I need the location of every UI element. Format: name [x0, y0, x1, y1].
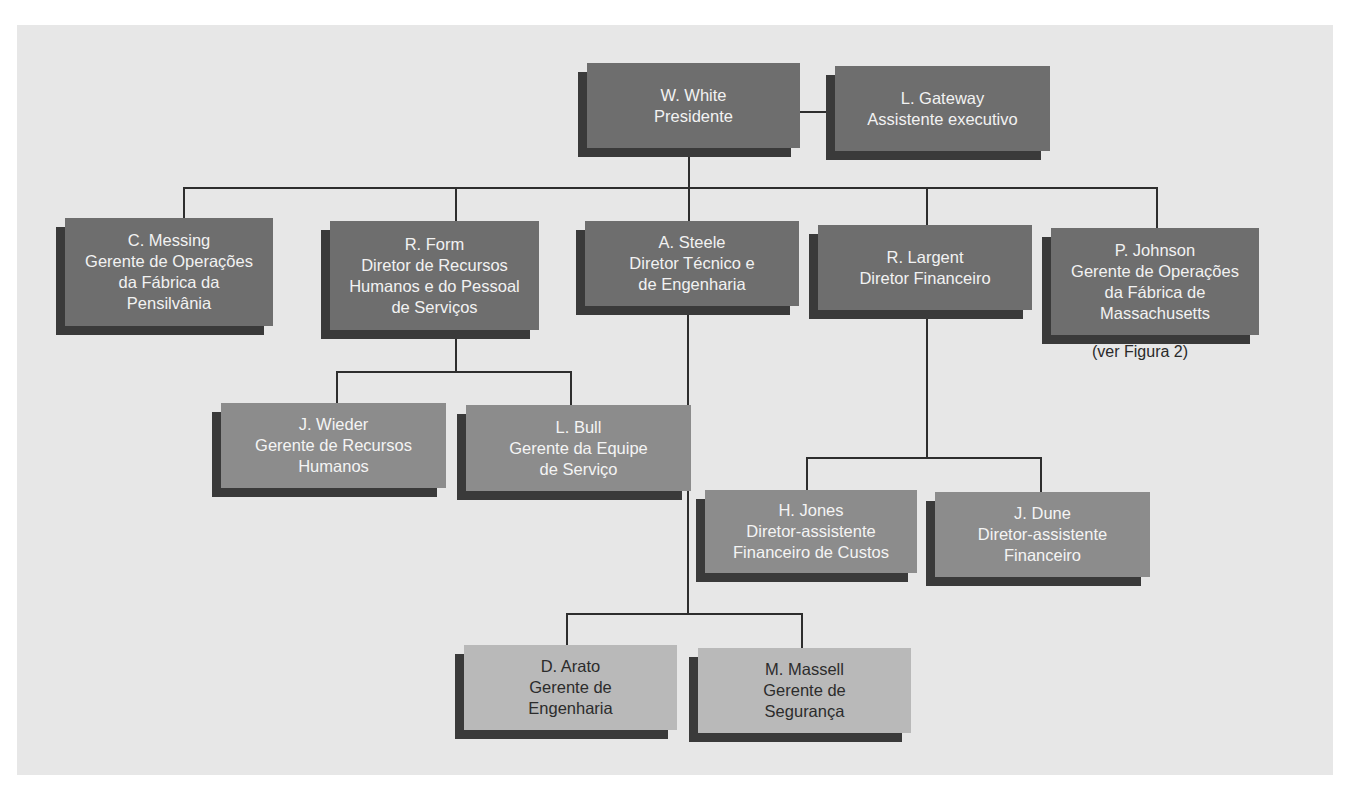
node-face: L. Gateway Assistente executivo: [835, 66, 1050, 151]
johnson-note: (ver Figura 2): [1092, 343, 1188, 361]
node-title: Financeiro de Custos: [733, 542, 889, 563]
node-title: de Serviços: [391, 297, 477, 318]
node-face: R. Form Diretor de Recursos Humanos e do…: [330, 221, 539, 330]
connector-jones: [806, 457, 808, 491]
node-title: Diretor Técnico e: [629, 253, 754, 274]
node-bull: L. Bull Gerente da Equipe de Serviço: [466, 405, 691, 491]
node-title: Diretor-assistente: [746, 521, 875, 542]
node-title: Humanos e do Pessoal: [349, 276, 520, 297]
connector-massell: [801, 613, 803, 649]
connector-arato: [566, 613, 568, 646]
connector-bull: [570, 371, 572, 406]
connector-largent: [926, 188, 928, 226]
connector-wieder: [336, 371, 338, 404]
node-name: A. Steele: [659, 232, 726, 253]
node-name: L. Gateway: [901, 88, 984, 109]
node-face: J. Dune Diretor-assistente Financeiro: [935, 492, 1150, 577]
node-face: A. Steele Diretor Técnico e de Engenhari…: [585, 221, 799, 306]
node-title: Financeiro: [1004, 545, 1081, 566]
node-massell: M. Massell Gerente de Segurança: [698, 648, 911, 733]
connector-largent-bar: [806, 457, 1042, 459]
connector-steele-bar: [566, 613, 803, 615]
node-name: H. Jones: [778, 500, 843, 521]
connector-messing: [183, 187, 185, 219]
node-title: Diretor de Recursos: [361, 255, 508, 276]
node-face: C. Messing Gerente de Operações da Fábri…: [65, 218, 273, 326]
node-face: D. Arato Gerente de Engenharia: [464, 645, 677, 730]
node-title: Gerente de Recursos: [255, 435, 412, 456]
connector-form-stem: [455, 338, 457, 372]
node-title: Assistente executivo: [867, 109, 1017, 130]
node-assistant: L. Gateway Assistente executivo: [835, 66, 1050, 151]
node-name: J. Dune: [1014, 503, 1071, 524]
node-title: da Fábrica de: [1105, 282, 1206, 303]
node-arato: D. Arato Gerente de Engenharia: [464, 645, 677, 730]
connector-dune: [1040, 457, 1042, 493]
node-name: C. Messing: [128, 230, 211, 251]
connector-form: [455, 187, 457, 222]
connector-largent-stem: [926, 318, 928, 459]
node-name: L. Bull: [556, 417, 602, 438]
node-title: Diretor Financeiro: [859, 268, 990, 289]
node-title: Gerente da Equipe: [509, 438, 648, 459]
node-messing: C. Messing Gerente de Operações da Fábri…: [65, 218, 273, 326]
node-title: Gerente de: [763, 680, 846, 701]
node-name: P. Johnson: [1115, 240, 1195, 261]
node-name: D. Arato: [541, 656, 601, 677]
node-title: Gerente de Operações: [85, 251, 253, 272]
node-face: P. Johnson Gerente de Operações da Fábri…: [1051, 228, 1259, 335]
node-dune: J. Dune Diretor-assistente Financeiro: [935, 492, 1150, 577]
node-jones: H. Jones Diretor-assistente Financeiro d…: [705, 490, 917, 573]
node-face: L. Bull Gerente da Equipe de Serviço: [466, 405, 691, 491]
node-president: W. White Presidente: [587, 63, 800, 148]
node-title: Gerente de Operações: [1071, 261, 1239, 282]
node-face: R. Largent Diretor Financeiro: [818, 225, 1032, 310]
node-title: Diretor-assistente: [978, 524, 1107, 545]
node-face: W. White Presidente: [587, 63, 800, 148]
node-name: R. Form: [405, 234, 465, 255]
node-johnson: P. Johnson Gerente de Operações da Fábri…: [1051, 228, 1259, 335]
node-title: Massachusetts: [1100, 303, 1210, 324]
node-title: Humanos: [298, 456, 369, 477]
node-title: da Fábrica da: [119, 272, 220, 293]
node-wieder: J. Wieder Gerente de Recursos Humanos: [221, 403, 446, 488]
connector-johnson: [1156, 188, 1158, 229]
node-name: J. Wieder: [299, 414, 369, 435]
node-title: Gerente de: [529, 677, 612, 698]
node-title: Pensilvânia: [127, 293, 211, 314]
connector-level2-bar: [183, 187, 1158, 189]
node-largent: R. Largent Diretor Financeiro: [818, 225, 1032, 310]
node-face: M. Massell Gerente de Segurança: [698, 648, 911, 733]
node-title: Presidente: [654, 106, 733, 127]
node-name: W. White: [660, 85, 726, 106]
node-title: de Serviço: [540, 459, 618, 480]
node-name: R. Largent: [886, 247, 963, 268]
node-face: H. Jones Diretor-assistente Financeiro d…: [705, 490, 917, 573]
node-title: Engenharia: [528, 698, 612, 719]
node-title: de Engenharia: [638, 274, 745, 295]
node-form: R. Form Diretor de Recursos Humanos e do…: [330, 221, 539, 330]
node-title: Segurança: [765, 701, 845, 722]
connector-steele: [688, 187, 690, 222]
node-name: M. Massell: [765, 659, 844, 680]
node-face: J. Wieder Gerente de Recursos Humanos: [221, 403, 446, 488]
node-steele: A. Steele Diretor Técnico e de Engenhari…: [585, 221, 799, 306]
connector-form-bar: [336, 371, 572, 373]
